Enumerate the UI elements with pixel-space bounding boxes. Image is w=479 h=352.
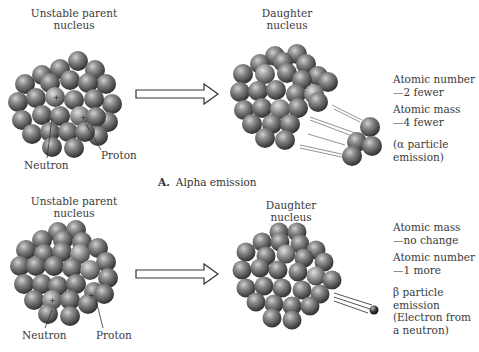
title-line: nucleus	[252, 19, 322, 31]
particle-note: emission	[393, 299, 475, 312]
alpha-caption: A.Alpha emission	[158, 176, 257, 188]
particle-note: (α particle	[393, 138, 475, 151]
alpha-effects: Atomic number —2 fewer Atomic mass —4 fe…	[393, 73, 475, 163]
particle-note: β particle	[393, 286, 475, 299]
beta-motion-lines	[334, 293, 372, 313]
effect-line: —4 fewer	[393, 116, 475, 129]
beta-parent-title: Unstable parent nucleus	[24, 195, 124, 219]
effect-line: —1 more	[393, 264, 475, 277]
effect-line: Atomic mass	[393, 221, 475, 234]
beta-neutron-label: Neutron	[22, 329, 67, 341]
alpha-neutron-label: Neutron	[24, 159, 69, 171]
particle-note: (Electron from	[393, 311, 475, 324]
svg-text:+: +	[49, 296, 56, 305]
alpha-parent-title: Unstable parent nucleus	[24, 7, 124, 31]
beta-daughter-title: Daughter nucleus	[256, 199, 326, 223]
caption-text: Alpha emission	[176, 176, 257, 188]
caption-letter: A.	[158, 176, 170, 188]
beta-parent-nucleus	[10, 220, 118, 326]
arrow-icon	[136, 264, 218, 284]
beta-effects: Atomic mass —no change Atomic number —1 …	[393, 221, 475, 336]
particle-note: emission)	[393, 151, 475, 164]
proton-pointer-b	[96, 300, 103, 328]
alpha-daughter-title: Daughter nucleus	[252, 7, 322, 31]
effect-line: —2 fewer	[393, 86, 475, 99]
title-line: Unstable parent	[24, 195, 124, 207]
neutron-marker: +	[53, 93, 60, 102]
effect-line: —no change	[393, 234, 475, 247]
arrow-icon	[136, 84, 218, 104]
beta-daughter-nucleus	[233, 223, 342, 330]
svg-text:+: +	[88, 291, 95, 300]
particle-note: a neutron)	[393, 324, 475, 337]
electron-particle	[370, 306, 379, 315]
title-line: Unstable parent	[24, 7, 124, 19]
title-line: Daughter	[252, 7, 322, 19]
title-line: nucleus	[24, 207, 124, 219]
alpha-particle	[342, 117, 382, 166]
beta-proton-label: Proton	[96, 329, 132, 341]
title-line: Daughter	[256, 199, 326, 211]
alpha-proton-label: Proton	[101, 149, 137, 161]
alpha-parent-nucleus: + +	[8, 51, 122, 158]
proton-marker: +	[80, 113, 87, 122]
title-line: nucleus	[24, 19, 124, 31]
effect-line: Atomic mass	[393, 103, 475, 116]
alpha-daughter-nucleus	[230, 44, 338, 150]
title-line: nucleus	[256, 211, 326, 223]
effect-line: Atomic number	[393, 251, 475, 264]
effect-line: Atomic number	[393, 73, 475, 86]
